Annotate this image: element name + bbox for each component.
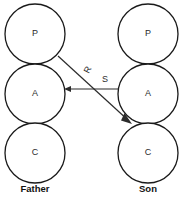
diagram-canvas: P A C Father P A C [0,0,188,198]
column-son: P A C Son [118,4,178,194]
node-son-adult[interactable]: A [118,64,178,124]
node-label-father-adult: A [32,88,38,98]
node-father-adult[interactable]: A [5,64,65,124]
node-father-child[interactable]: C [5,123,65,183]
node-label-son-adult: A [145,88,151,98]
node-label-father-child: C [32,147,39,157]
node-son-parent[interactable]: P [118,4,178,64]
node-father-parent[interactable]: P [5,4,65,64]
group-label-father: Father [20,183,49,194]
column-father: P A C Father [5,4,65,194]
edge-label-r: R [82,64,94,75]
node-label-son-child: C [145,147,152,157]
edge-label-s: S [102,74,108,84]
diagram-svg: P A C Father P A C [0,0,188,198]
node-son-child[interactable]: C [118,123,178,183]
node-label-father-parent: P [32,28,38,38]
edge-s-response[interactable]: S [64,74,118,92]
node-label-son-parent: P [145,28,151,38]
group-label-son: Son [139,183,157,194]
